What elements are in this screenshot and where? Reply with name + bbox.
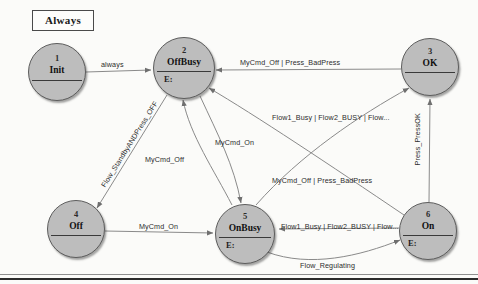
edge-label-mycmd-on-mid: MyCmd_On (215, 138, 254, 147)
edge-onbusy-to-ok (256, 88, 409, 205)
state-label: Off (48, 221, 104, 231)
state-number: 6 (400, 209, 456, 219)
edge-init-to-offbusy (86, 70, 151, 72)
state-entry-label: E: (408, 238, 417, 248)
state-label: OK (402, 58, 458, 68)
state-label: On (400, 221, 456, 231)
diagram-title: Always (32, 10, 94, 31)
state-entry-label: E: (164, 74, 173, 84)
edge-offbusy-to-onbusy (200, 96, 241, 203)
edge-label-flow-regulating: Flow_Regulating (300, 261, 355, 270)
state-node-ok[interactable]: 3 OK (401, 38, 459, 96)
edge-onbusy-to-offbusy (183, 100, 232, 205)
state-node-off[interactable]: 4 Off (47, 200, 105, 258)
edge-on-to-ok (429, 99, 430, 202)
state-diagram-canvas: Always 1 Init 2 OffBusy E: 3 OK 4 Off (0, 0, 478, 284)
state-divider (405, 72, 455, 73)
edge-on-to-offbusy (209, 88, 404, 215)
edge-label-always: always (101, 60, 124, 69)
state-node-off-inner: 4 Off (48, 201, 104, 257)
state-node-onbusy-inner: 5 OnBusy E: (216, 205, 274, 263)
edge-off-to-onbusy (105, 231, 213, 233)
frame-rule-thin (0, 274, 478, 275)
state-node-onbusy[interactable]: 5 OnBusy E: (215, 204, 275, 264)
frame-rule-bold (0, 278, 478, 280)
state-divider (32, 80, 82, 81)
edge-onbusy-to-on (267, 240, 400, 260)
state-node-init-inner: 1 Init (29, 44, 85, 100)
edge-label-flow-busy-lower: Flow1_Busy | Flow2_BUSY | Flow... (281, 222, 399, 231)
state-divider (157, 71, 211, 72)
state-divider (403, 235, 453, 236)
edge-label-mycmd-off-mid: MyCmd_Off (145, 155, 184, 164)
state-node-on[interactable]: 6 On E: (399, 202, 457, 260)
edge-label-flow-busy-upper: Flow1_Busy | Flow2_BUSY | Flow... (272, 113, 390, 122)
state-node-offbusy[interactable]: 2 OffBusy E: (153, 37, 215, 99)
state-number: 2 (154, 45, 214, 55)
state-number: 5 (216, 211, 274, 221)
state-node-on-inner: 6 On E: (400, 203, 456, 259)
state-label: OffBusy (154, 57, 214, 67)
state-node-ok-inner: 3 OK (402, 39, 458, 95)
state-divider (51, 235, 101, 236)
edge-label-mycmd-on-lower: MyCmd_On (139, 222, 178, 231)
state-divider (219, 237, 271, 238)
edge-ok-to-offbusy (216, 69, 401, 70)
edge-label-press-pressok: Press_PressOK (413, 113, 422, 165)
edge-offbusy-to-off (97, 95, 167, 208)
state-entry-label: E: (226, 240, 235, 250)
state-number: 3 (402, 46, 458, 56)
edge-label-mycmd-off-press-badpress-top: MyCmd_Off | Press_BadPress (240, 58, 340, 67)
state-label: Init (29, 65, 85, 75)
state-node-offbusy-inner: 2 OffBusy E: (154, 38, 214, 98)
state-number: 4 (48, 209, 104, 219)
state-node-init[interactable]: 1 Init (28, 43, 86, 101)
state-label: OnBusy (216, 223, 274, 233)
state-number: 1 (29, 53, 85, 63)
edge-label-mycmd-off-press-badpress-mid: MyCmd_Off | Press_BadPress (272, 176, 372, 185)
